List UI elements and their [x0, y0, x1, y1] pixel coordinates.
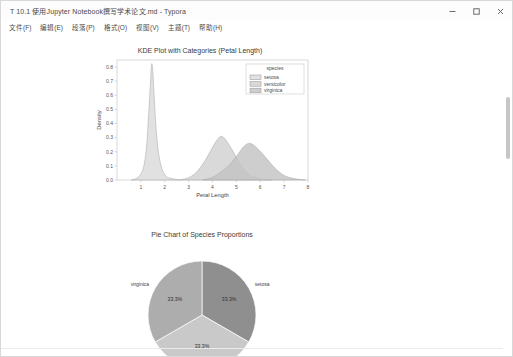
- pie-label-setosa: setosa: [255, 281, 270, 287]
- kde-xtick-label: 2: [163, 184, 166, 190]
- menu-bar: 文件(F) 编辑(E) 段落(P) 格式(O) 视图(V) 主题(T) 帮助(H…: [1, 21, 512, 35]
- close-icon: [496, 7, 505, 16]
- kde-ytick-label: 0.5: [106, 106, 113, 112]
- kde-yaxis-title: Density: [96, 110, 102, 129]
- kde-legend-label-virginica: virginica: [264, 87, 283, 93]
- kde-ytick-label: 0.4: [106, 120, 113, 126]
- menu-paragraph[interactable]: 段落(P): [72, 25, 95, 32]
- kde-xtick-label: 4: [211, 184, 214, 190]
- kde-xtick-label: 7: [283, 184, 286, 190]
- scrollbar-thumb[interactable]: [506, 97, 510, 159]
- kde-ytick-label: 0.3: [106, 134, 113, 140]
- pie-pct-virginica: 33.3%: [168, 296, 183, 302]
- kde-xtick-label: 3: [187, 184, 190, 190]
- kde-xtick-label: 8: [307, 184, 310, 190]
- kde-plot-svg: 0.00.10.20.30.40.50.60.70.812345678Petal…: [87, 47, 313, 209]
- minimize-icon: [448, 7, 457, 16]
- window-controls: [440, 1, 512, 21]
- kde-legend-swatch-virginica: [250, 88, 261, 93]
- menu-help[interactable]: 帮助(H): [199, 25, 222, 32]
- pie-chart-svg: 33.3%setosa33.3%versicolor33.3%virginica: [96, 231, 308, 356]
- kde-ytick-label: 0.0: [106, 177, 113, 183]
- kde-xaxis-title: Petal Length: [196, 192, 229, 198]
- minimize-button[interactable]: [440, 1, 464, 21]
- menu-edit[interactable]: 编辑(E): [40, 25, 63, 32]
- title-bar: T 10.1 使用Jupyter Notebook撰写学术论文.md - Typ…: [1, 1, 512, 21]
- kde-xtick-label: 1: [139, 184, 142, 190]
- kde-legend-label-versicolor: versicolor: [264, 81, 286, 87]
- kde-legend-title: species: [267, 65, 284, 71]
- vertical-scrollbar[interactable]: [503, 35, 512, 356]
- kde-chart-title: KDE Plot with Categories (Petal Length): [87, 47, 313, 54]
- menu-file[interactable]: 文件(F): [9, 25, 31, 32]
- kde-ytick-label: 0.6: [106, 92, 113, 98]
- kde-xtick-label: 6: [259, 184, 262, 190]
- menu-format[interactable]: 格式(O): [104, 25, 127, 32]
- kde-legend-swatch-setosa: [250, 75, 261, 80]
- typora-window: T 10.1 使用Jupyter Notebook撰写学术论文.md - Typ…: [0, 0, 513, 357]
- kde-ytick-label: 0.7: [106, 78, 113, 84]
- pie-chart-title: Pie Chart of Species Proportions: [96, 231, 308, 238]
- maximize-button[interactable]: [464, 1, 488, 21]
- kde-ytick-label: 0.2: [106, 149, 113, 155]
- kde-legend-label-setosa: setosa: [264, 74, 279, 80]
- window-title: T 10.1 使用Jupyter Notebook撰写学术论文.md - Typ…: [1, 6, 186, 16]
- menu-view[interactable]: 视图(V): [136, 25, 159, 32]
- content-divider: [1, 348, 503, 349]
- kde-ytick-label: 0.8: [106, 64, 113, 70]
- pie-pct-setosa: 33.3%: [222, 296, 237, 302]
- kde-figure: KDE Plot with Categories (Petal Length) …: [87, 47, 313, 209]
- maximize-icon: [472, 7, 481, 16]
- close-button[interactable]: [488, 1, 512, 21]
- menu-theme[interactable]: 主题(T): [168, 25, 190, 32]
- pie-label-virginica: virginica: [131, 281, 150, 287]
- kde-ytick-label: 0.1: [106, 163, 113, 169]
- pie-figure: Pie Chart of Species Proportions 33.3%se…: [96, 231, 308, 356]
- kde-xtick-label: 5: [235, 184, 238, 190]
- kde-legend-swatch-versicolor: [250, 82, 261, 87]
- document-content[interactable]: KDE Plot with Categories (Petal Length) …: [1, 35, 512, 356]
